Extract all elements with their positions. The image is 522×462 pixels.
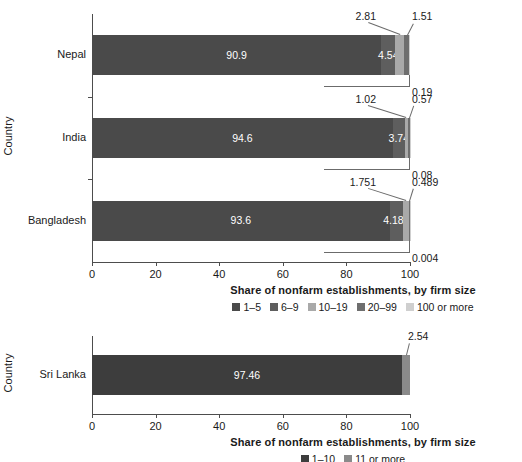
top-chart-y-tick: [88, 179, 92, 180]
bottom-chart-x-tick: [219, 414, 220, 418]
top-chart-legend-label: 20–99: [368, 302, 397, 313]
bottom-chart-plot-area: 02040608010097.462.54: [92, 336, 410, 414]
top-chart-y-tick-label-india: India: [0, 132, 92, 143]
top-chart-x-tick: [410, 262, 411, 266]
top-chart-legend: 1–56–910–1920–99100 or more: [0, 302, 522, 313]
top-chart-legend-swatch-icon: [270, 303, 278, 311]
bottom-chart-legend-item[interactable]: 11 or more: [344, 454, 405, 462]
bottom-chart-callout-label: 2.54: [408, 331, 428, 342]
top-chart-legend-item[interactable]: 20–99: [357, 302, 397, 313]
top-chart-callout-leader: [324, 169, 410, 170]
top-chart-segment: [395, 35, 404, 75]
top-chart-x-tick: [156, 262, 157, 266]
top-chart-segment: [410, 201, 411, 241]
top-chart-callout-label: 0.004: [412, 253, 438, 264]
top-chart-x-axis-line: [92, 262, 410, 263]
bottom-chart-x-tick-label: 60: [277, 420, 289, 432]
bottom-chart-x-tick: [92, 414, 93, 418]
top-chart-bar-nepal: 90.94.54: [92, 35, 410, 75]
top-chart-callout-label: 1.02: [356, 94, 376, 105]
top-chart-callout-label: 0.57: [412, 94, 432, 105]
top-chart-x-tick-label: 80: [340, 268, 352, 280]
top-chart-segment: 94.6: [92, 118, 393, 158]
bottom-chart-x-tick-label: 20: [149, 420, 161, 432]
top-chart-callout-leader: [409, 75, 410, 86]
bottom-chart-x-tick: [346, 414, 347, 418]
bottom-chart-x-tick: [156, 414, 157, 418]
top-chart-callout-leader: [407, 23, 414, 35]
bottom-chart-segment: [402, 355, 410, 395]
bottom-chart-x-tick: [283, 414, 284, 418]
top-chart-segment: 90.9: [92, 35, 381, 75]
bottom-chart-legend-swatch-icon: [344, 455, 352, 462]
top-chart-segment: 3.74: [393, 118, 405, 158]
top-chart-callout-label: 2.81: [356, 11, 376, 22]
top-chart-legend-item[interactable]: 1–5: [232, 302, 261, 313]
top-chart-bar-india: 94.63.74: [92, 118, 410, 158]
top-chart-panel: Country NepalIndiaBangladesh 02040608010…: [0, 0, 522, 330]
top-chart-legend-item[interactable]: 10–19: [308, 302, 348, 313]
bottom-chart-legend-swatch-icon: [301, 455, 309, 462]
top-chart-y-tick-label-bangladesh: Bangladesh: [0, 215, 92, 226]
top-chart-legend-swatch-icon: [232, 303, 240, 311]
top-chart-x-tick-label: 20: [149, 268, 161, 280]
top-chart-segment: [410, 118, 411, 158]
top-chart-legend-swatch-icon: [308, 303, 316, 311]
bottom-chart-y-tick-label-sri-lanka: Sri Lanka: [0, 369, 92, 380]
bottom-chart-x-tick-label: 80: [340, 420, 352, 432]
top-chart-callout-leader: [409, 189, 414, 201]
top-chart-callout-leader: [409, 106, 414, 118]
chart-page: Country NepalIndiaBangladesh 02040608010…: [0, 0, 522, 462]
top-chart-legend-label: 6–9: [281, 302, 299, 313]
top-chart-callout-leader: [368, 188, 406, 201]
top-chart-segment-value: 94.6: [232, 133, 252, 144]
top-chart-legend-label: 10–19: [319, 302, 348, 313]
top-chart-y-tick: [88, 97, 92, 98]
top-chart-callout-label: 1.751: [350, 177, 376, 188]
top-chart-legend-swatch-icon: [406, 303, 414, 311]
top-chart-callout-label: 0.489: [412, 177, 438, 188]
bottom-chart-x-tick-label: 40: [213, 420, 225, 432]
top-chart-segment: [409, 35, 410, 75]
top-chart-legend-item[interactable]: 100 or more: [406, 302, 474, 313]
top-chart-legend-swatch-icon: [357, 303, 365, 311]
bottom-chart-x-tick-label: 0: [89, 420, 95, 432]
bottom-chart-x-tick: [410, 414, 411, 418]
top-chart-callout-leader: [409, 241, 410, 252]
top-chart-y-tick-label-nepal: Nepal: [0, 49, 92, 60]
top-chart-segment-value: 90.9: [226, 50, 246, 61]
bottom-chart-x-tick-label: 100: [401, 420, 419, 432]
bottom-chart-segment: 97.46: [92, 355, 402, 395]
top-chart-legend-label: 1–5: [243, 302, 261, 313]
top-chart-x-tick: [346, 262, 347, 266]
top-chart-bar-bangladesh: 93.64.180: [92, 201, 410, 241]
top-chart-x-tick-label: 0: [89, 268, 95, 280]
bottom-chart-x-axis-title: Share of nonfarm establishments, by firm…: [0, 436, 522, 448]
bottom-chart-bar-sri-lanka: 97.46: [92, 355, 410, 395]
bottom-chart-legend-label: 11 or more: [355, 454, 405, 462]
top-chart-segment-value: 93.6: [231, 215, 251, 226]
top-chart-callout-leader: [324, 86, 410, 87]
top-chart-segment: 4.54: [381, 35, 395, 75]
bottom-chart-x-axis-line: [92, 414, 410, 415]
bottom-chart-legend-item[interactable]: 1–10: [301, 454, 335, 462]
top-chart-callout-leader: [409, 158, 410, 169]
bottom-chart-legend-label: 1–10: [312, 454, 335, 462]
top-chart-x-axis-title: Share of nonfarm establishments, by firm…: [0, 284, 522, 296]
top-chart-segment: 4.180: [390, 201, 403, 241]
top-chart-x-tick-label: 100: [401, 268, 419, 280]
bottom-chart-legend: 1–1011 or more: [0, 454, 522, 462]
top-chart-legend-item[interactable]: 6–9: [270, 302, 299, 313]
top-chart-callout-leader: [324, 252, 410, 253]
top-chart-x-tick: [283, 262, 284, 266]
bottom-chart-callout-leader: [406, 343, 410, 355]
top-chart-x-tick-label: 60: [277, 268, 289, 280]
top-chart-callout-leader: [368, 105, 407, 118]
top-chart-x-tick: [92, 262, 93, 266]
top-chart-callout-label: 1.51: [412, 11, 432, 22]
bottom-chart-segment-value: 97.46: [234, 370, 260, 381]
top-chart-callout-leader: [368, 22, 400, 35]
top-chart-legend-label: 100 or more: [417, 302, 474, 313]
top-chart-x-tick-label: 40: [213, 268, 225, 280]
top-chart-segment: 93.6: [92, 201, 390, 241]
